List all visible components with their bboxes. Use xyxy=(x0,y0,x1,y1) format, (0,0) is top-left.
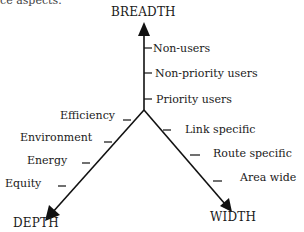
width-tick-link-specific: Link specific xyxy=(185,124,255,135)
depth-axis-label: DEPTH xyxy=(13,217,59,229)
axes-diagram xyxy=(0,0,304,232)
breadth-tick-priority-users: Priority users xyxy=(156,94,232,105)
width-tick-route-specific: Route specific xyxy=(213,148,292,159)
breadth-arrow-icon xyxy=(138,22,150,36)
width-axis-label: WIDTH xyxy=(210,211,256,223)
width-tick-area-wide: Area wide xyxy=(240,172,296,183)
depth-tick-equity: Equity xyxy=(5,178,41,189)
breadth-axis-label: BREADTH xyxy=(111,6,176,18)
depth-tick-energy: Energy xyxy=(27,155,67,166)
breadth-tick-non-users: Non-users xyxy=(153,43,210,54)
breadth-tick-non-priority-users: Non-priority users xyxy=(155,68,258,79)
depth-tick-environment: Environment xyxy=(20,132,92,143)
depth-tick-efficiency: Efficiency xyxy=(60,110,115,121)
